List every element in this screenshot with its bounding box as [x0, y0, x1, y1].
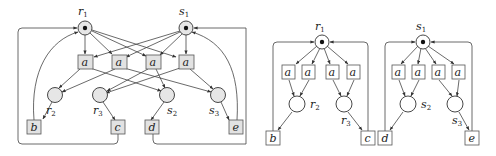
transition-e: e	[465, 131, 479, 145]
transition-a3: a	[326, 65, 339, 79]
label-s1: s1	[179, 5, 189, 19]
transition-d: d	[378, 131, 392, 145]
transition-c: c	[111, 120, 125, 134]
svg-text:a: a	[329, 66, 336, 79]
label-s3: s3	[209, 104, 219, 118]
place-s2	[160, 88, 175, 103]
label-r2: r2	[310, 98, 320, 112]
left-petri-net: r1 s1 r2 r3 s2 s3 a a a a b c d e	[18, 5, 246, 144]
transition-a4: a	[347, 65, 360, 79]
right-petri-net-s: s1 s2 s3 a a a a d e	[378, 20, 479, 145]
place-s2	[400, 96, 416, 112]
label-r2: r2	[46, 104, 56, 118]
transition-c: c	[361, 131, 375, 145]
label-s1: s1	[416, 20, 426, 34]
svg-text:c: c	[365, 132, 371, 145]
svg-text:e: e	[469, 132, 476, 145]
svg-text:a: a	[395, 66, 402, 79]
svg-text:a: a	[435, 66, 442, 79]
petri-net-figure: r1 s1 r2 r3 s2 s3 a a a a b c d e r1 r2	[0, 0, 496, 156]
right-petri-net-r: r1 r2 r3 a a a a b c	[266, 20, 375, 145]
label-s2: s2	[421, 98, 431, 112]
svg-text:a: a	[350, 66, 357, 79]
place-r2	[289, 96, 305, 112]
transition-a3: a	[432, 65, 445, 79]
transition-a1: a	[392, 65, 405, 79]
label-s2: s2	[167, 104, 177, 118]
svg-text:a: a	[455, 66, 462, 79]
label-r1: r1	[315, 20, 325, 34]
svg-text:a: a	[415, 66, 422, 79]
transition-a3: a	[146, 55, 161, 69]
svg-text:a: a	[305, 66, 312, 79]
place-r3	[336, 96, 352, 112]
svg-text:b: b	[31, 121, 38, 134]
label-r1: r1	[78, 5, 88, 19]
token-icon	[421, 40, 425, 44]
transition-a4: a	[452, 65, 465, 79]
place-s3	[447, 96, 463, 112]
svg-text:e: e	[233, 121, 240, 134]
place-s3	[211, 88, 226, 103]
svg-text:d: d	[382, 132, 389, 145]
token-icon	[83, 26, 87, 30]
transition-a4: a	[179, 55, 194, 69]
transition-a2: a	[412, 65, 425, 79]
transition-e: e	[229, 120, 243, 134]
token-icon	[320, 40, 324, 44]
label-s3: s3	[452, 114, 462, 128]
svg-text:a: a	[150, 56, 157, 69]
transition-d: d	[145, 120, 159, 134]
label-r3: r3	[93, 104, 103, 118]
place-r2	[48, 88, 63, 103]
svg-text:a: a	[183, 56, 190, 69]
label-r3: r3	[341, 114, 351, 128]
transition-a2: a	[112, 55, 127, 69]
svg-text:b: b	[270, 132, 277, 145]
svg-text:c: c	[115, 121, 121, 134]
transition-b: b	[266, 131, 280, 145]
transition-a1: a	[282, 65, 295, 79]
token-icon	[184, 26, 188, 30]
svg-text:a: a	[116, 56, 123, 69]
transition-b: b	[27, 120, 41, 134]
transition-a2: a	[302, 65, 315, 79]
svg-text:d: d	[149, 121, 156, 134]
svg-text:a: a	[82, 56, 89, 69]
transition-a1: a	[78, 55, 93, 69]
svg-text:a: a	[285, 66, 292, 79]
place-r3	[93, 88, 108, 103]
